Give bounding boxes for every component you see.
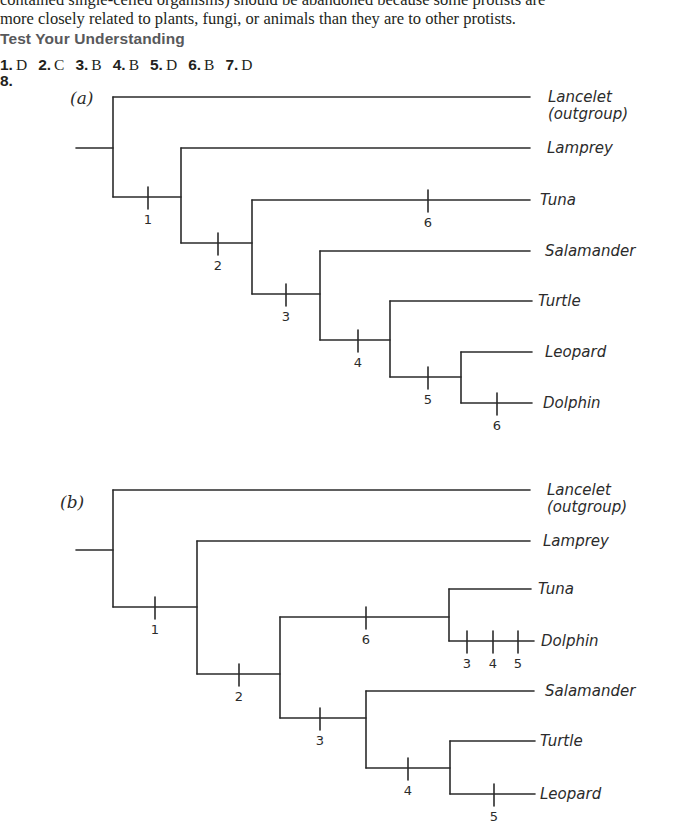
character-label: 5 xyxy=(490,809,498,824)
taxon-sublabel: (outgroup) xyxy=(547,498,627,516)
taxon-label: Dolphin xyxy=(543,394,601,412)
taxon-label: Dolphin xyxy=(541,632,599,650)
character-label: 3 xyxy=(316,733,324,748)
phylogenetic-trees-figure: (a)1263456Lancelet(outgroup)LampreyTunaS… xyxy=(0,0,674,828)
character-label: 6 xyxy=(362,632,370,647)
character-label: 6 xyxy=(493,418,501,433)
taxon-label: Turtle xyxy=(540,732,583,750)
character-label: 3 xyxy=(282,309,290,324)
character-label: 5 xyxy=(424,392,432,407)
character-label: 4 xyxy=(354,355,362,370)
tree-a: (a)1263456Lancelet(outgroup)LampreyTunaS… xyxy=(70,88,636,433)
panel-label: (b) xyxy=(60,492,84,512)
taxon-label: Tuna xyxy=(540,191,576,209)
character-label: 1 xyxy=(144,212,152,227)
character-label: 2 xyxy=(214,258,222,273)
taxon-label: Leopard xyxy=(545,343,607,361)
character-label: 6 xyxy=(424,215,432,230)
taxon-label: Lancelet xyxy=(547,481,612,499)
tree-b: (b)126345345Lancelet(outgroup)LampreyTun… xyxy=(60,481,636,824)
character-label: 1 xyxy=(151,622,159,637)
taxon-label: Lamprey xyxy=(543,532,610,550)
taxon-label: Turtle xyxy=(538,292,581,310)
taxon-label: Tuna xyxy=(538,580,574,598)
taxon-label: Salamander xyxy=(545,682,636,700)
taxon-label: Salamander xyxy=(545,242,636,260)
character-label: 2 xyxy=(235,689,243,704)
taxon-sublabel: (outgroup) xyxy=(548,105,628,123)
taxon-label: Leopard xyxy=(540,785,602,803)
character-label: 5 xyxy=(514,656,522,671)
character-label: 4 xyxy=(489,656,497,671)
character-label: 4 xyxy=(404,783,412,798)
taxon-label: Lamprey xyxy=(547,139,614,157)
character-label: 3 xyxy=(463,656,471,671)
taxon-label: Lancelet xyxy=(548,88,613,106)
panel-label: (a) xyxy=(70,88,93,108)
